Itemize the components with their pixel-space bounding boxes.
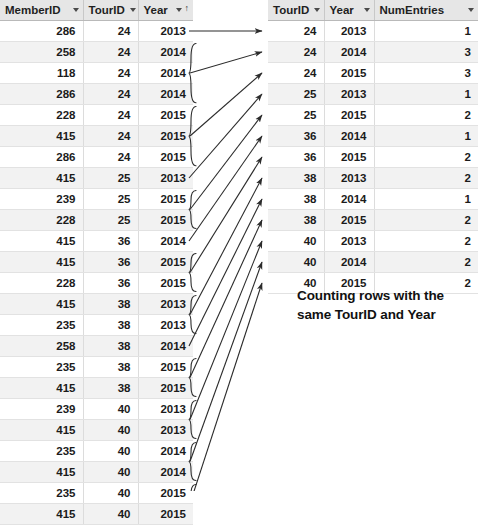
cell-member-id[interactable]: 239: [0, 189, 83, 210]
source-datasheet[interactable]: MemberID TourID ↑ Year ↑ 286242013258: [0, 0, 193, 525]
table-row[interactable]: 415362015: [0, 252, 193, 273]
cell-num-entries[interactable]: 1: [374, 189, 478, 210]
table-row[interactable]: 415402015: [0, 504, 193, 525]
cell-member-id[interactable]: 415: [0, 252, 83, 273]
cell-tour-id[interactable]: 24: [83, 126, 138, 147]
cell-tour-id[interactable]: 36: [83, 231, 138, 252]
cell-year[interactable]: 2014: [138, 336, 193, 357]
cell-tour-id[interactable]: 40: [83, 399, 138, 420]
cell-tour-id[interactable]: 38: [83, 336, 138, 357]
cell-tour-id[interactable]: 40: [83, 504, 138, 525]
chevron-down-icon[interactable]: [468, 8, 474, 12]
cell-year[interactable]: 2013: [324, 231, 374, 252]
cell-member-id[interactable]: 235: [0, 483, 83, 504]
table-row[interactable]: 239252015: [0, 189, 193, 210]
cell-member-id[interactable]: 415: [0, 126, 83, 147]
cell-tour-id[interactable]: 24: [268, 63, 324, 84]
cell-tour-id[interactable]: 36: [83, 252, 138, 273]
table-row[interactable]: 2420143: [268, 42, 478, 63]
cell-member-id[interactable]: 415: [0, 231, 83, 252]
cell-year[interactable]: 2015: [138, 105, 193, 126]
cell-num-entries[interactable]: 3: [374, 42, 478, 63]
table-row[interactable]: 415402014: [0, 462, 193, 483]
cell-tour-id[interactable]: 36: [83, 273, 138, 294]
table-row[interactable]: 4020132: [268, 231, 478, 252]
cell-year[interactable]: 2015: [138, 378, 193, 399]
cell-member-id[interactable]: 415: [0, 420, 83, 441]
cell-tour-id[interactable]: 25: [83, 210, 138, 231]
cell-tour-id[interactable]: 38: [83, 357, 138, 378]
cell-tour-id[interactable]: 25: [83, 189, 138, 210]
table-row[interactable]: 2520152: [268, 105, 478, 126]
cell-year[interactable]: 2014: [138, 63, 193, 84]
cell-tour-id[interactable]: 24: [268, 21, 324, 42]
cell-year[interactable]: 2014: [138, 42, 193, 63]
cell-member-id[interactable]: 228: [0, 105, 83, 126]
table-row[interactable]: 286242013: [0, 21, 193, 42]
cell-member-id[interactable]: 415: [0, 294, 83, 315]
cell-year[interactable]: 2015: [138, 483, 193, 504]
table-row[interactable]: 228252015: [0, 210, 193, 231]
cell-member-id[interactable]: 118: [0, 63, 83, 84]
cell-year[interactable]: 2014: [138, 84, 193, 105]
cell-tour-id[interactable]: 24: [83, 21, 138, 42]
chevron-down-icon[interactable]: [314, 8, 320, 12]
cell-year[interactable]: 2014: [138, 462, 193, 483]
cell-year[interactable]: 2013: [324, 21, 374, 42]
cell-member-id[interactable]: 286: [0, 84, 83, 105]
cell-year[interactable]: 2014: [138, 231, 193, 252]
chevron-down-icon[interactable]: [73, 8, 79, 12]
table-row[interactable]: 415382013: [0, 294, 193, 315]
cell-tour-id[interactable]: 40: [83, 420, 138, 441]
cell-year[interactable]: 2015: [324, 105, 374, 126]
cell-tour-id[interactable]: 24: [83, 42, 138, 63]
chevron-down-icon[interactable]: [130, 8, 136, 12]
cell-num-entries[interactable]: 1: [374, 21, 478, 42]
table-row[interactable]: 415242015: [0, 126, 193, 147]
cell-year[interactable]: 2013: [138, 21, 193, 42]
cell-tour-id[interactable]: 24: [268, 42, 324, 63]
cell-num-entries[interactable]: 2: [374, 147, 478, 168]
cell-tour-id[interactable]: 24: [83, 147, 138, 168]
cell-tour-id[interactable]: 25: [83, 168, 138, 189]
cell-year[interactable]: 2013: [324, 168, 374, 189]
table-row[interactable]: 118242014: [0, 63, 193, 84]
cell-tour-id[interactable]: 38: [83, 378, 138, 399]
cell-tour-id[interactable]: 40: [83, 441, 138, 462]
cell-tour-id[interactable]: 38: [268, 168, 324, 189]
table-row[interactable]: 2420131: [268, 21, 478, 42]
cell-year[interactable]: 2014: [138, 441, 193, 462]
table-row[interactable]: 4020142: [268, 252, 478, 273]
table-row[interactable]: 258242014: [0, 42, 193, 63]
column-header-tourid[interactable]: TourID ↑: [83, 0, 138, 21]
result-datasheet[interactable]: TourID Year NumEntries 24201312420143242…: [268, 0, 478, 294]
cell-member-id[interactable]: 286: [0, 21, 83, 42]
cell-tour-id[interactable]: 40: [83, 462, 138, 483]
cell-num-entries[interactable]: 1: [374, 84, 478, 105]
cell-year[interactable]: 2013: [138, 294, 193, 315]
cell-year[interactable]: 2015: [324, 210, 374, 231]
cell-tour-id[interactable]: 24: [83, 105, 138, 126]
table-row[interactable]: 415382015: [0, 378, 193, 399]
cell-tour-id[interactable]: 40: [83, 483, 138, 504]
cell-tour-id[interactable]: 36: [268, 147, 324, 168]
cell-tour-id[interactable]: 38: [83, 294, 138, 315]
cell-year[interactable]: 2015: [324, 63, 374, 84]
chevron-down-icon[interactable]: [176, 8, 182, 12]
table-row[interactable]: 415402013: [0, 420, 193, 441]
cell-tour-id[interactable]: 24: [83, 84, 138, 105]
cell-year[interactable]: 2015: [138, 189, 193, 210]
cell-year[interactable]: 2013: [324, 84, 374, 105]
cell-year[interactable]: 2015: [138, 504, 193, 525]
cell-member-id[interactable]: 286: [0, 147, 83, 168]
cell-member-id[interactable]: 235: [0, 315, 83, 336]
cell-year[interactable]: 2013: [138, 399, 193, 420]
cell-tour-id[interactable]: 25: [268, 105, 324, 126]
chevron-down-icon[interactable]: [364, 8, 370, 12]
cell-num-entries[interactable]: 2: [374, 210, 478, 231]
cell-num-entries[interactable]: 2: [374, 231, 478, 252]
table-row[interactable]: 415252013: [0, 168, 193, 189]
cell-tour-id[interactable]: 38: [268, 210, 324, 231]
column-header-year[interactable]: Year: [324, 0, 374, 21]
cell-year[interactable]: 2015: [138, 252, 193, 273]
